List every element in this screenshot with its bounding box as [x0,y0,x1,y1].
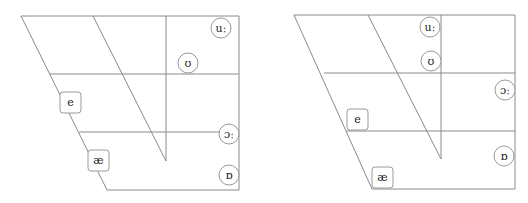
vowel-marker-oo: ɔː [495,80,515,100]
chart-grid-right [294,15,515,189]
vowel-symbol: e [67,96,74,109]
vowel-symbol: e [354,113,361,126]
vowel-marker-ae: æ [372,167,393,188]
vowel-marker-ae: æ [88,150,109,171]
vowel-symbol: uː [216,22,227,35]
vowel-symbol: æ [377,171,387,184]
vowel-marker-o: ɒ [219,165,239,185]
vowel-symbol: æ [93,154,103,167]
vowel-marker-u: ʊ [178,53,198,73]
vowel-charts: uː ʊ e ɔː æ ɒ [0,0,528,203]
vowel-marker-e: e [347,109,368,130]
vowel-marker-oo: ɔː [219,124,239,144]
vowel-chart-left: uː ʊ e ɔː æ ɒ [21,16,239,190]
vowel-marker-uu: uː [211,18,231,38]
vowel-symbol: ɔː [500,84,510,97]
vowel-symbol: uː [425,21,436,34]
vowel-symbol: ɔː [224,128,234,141]
vowel-symbol: ʊ [185,57,192,70]
vowel-marker-u: ʊ [421,51,441,71]
vowel-marker-uu: uː [420,17,440,37]
chart-grid-left [21,16,239,190]
vowel-marker-e: e [60,92,81,113]
vowel-marker-o: ɒ [494,146,514,166]
vowel-chart-right: uː ʊ ɔː e ɒ æ [294,15,515,189]
vowel-symbol: ɒ [225,169,232,182]
vowel-symbol: ɒ [500,150,507,163]
vowel-symbol: ʊ [428,55,435,68]
